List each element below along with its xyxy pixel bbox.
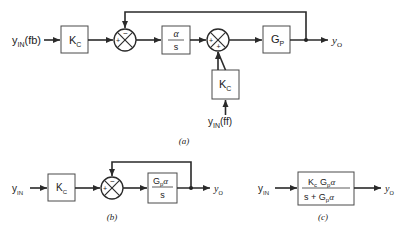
input-label-b: yIN [12,183,23,196]
caption-a: (a) [179,136,190,146]
summing-junction-2: + + [207,29,229,51]
output-label: yO [331,34,342,49]
s-denominator: s [174,42,179,52]
output-label-b: yO [213,183,223,196]
sum2-plus-sign-left: + [209,37,213,44]
diagram-a: yIN(fb) KC + − α s + + GP yO [12,12,342,146]
sum2-plus-sign-bottom: + [216,43,220,50]
summing-junction-b: + − [101,177,123,199]
tf-c-denominator: s + Gpα [304,192,334,203]
block-diagram-canvas: yIN(fb) KC + − α s + + GP yO [0,0,406,229]
output-label-c: yO [384,183,394,196]
input-fb-label: yIN(fb) [12,34,41,48]
tf-c-numerator: KcGpα [308,177,335,188]
alpha-numerator: α [173,28,179,39]
caption-b: (b) [107,212,118,222]
sum1-plus-sign: + [116,37,120,44]
sum-b-minus-sign: − [110,177,115,186]
caption-c: (c) [318,212,328,222]
sum1-minus-sign: − [123,29,128,38]
diagram-b: yIN KC + − Gpα s yO (b) [12,162,223,222]
tf-b-denominator: s [160,190,165,200]
sum-b-plus-sign: + [103,185,107,192]
input-label-c: yIN [258,183,269,196]
diagram-c: yIN KcGpα s + Gpα yO (c) [258,172,394,222]
summing-junction-1: + − [114,29,136,51]
input-ff-label: yIN(ff) [208,116,232,129]
